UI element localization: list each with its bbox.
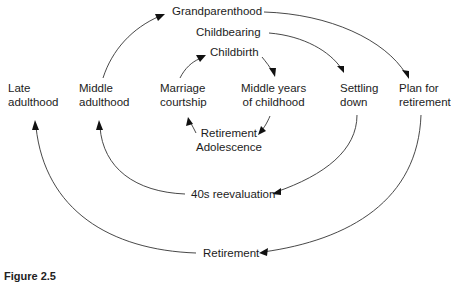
node-label-line-1: Marriage [160, 82, 207, 96]
node-plan-for-retirement: Plan for retirement [399, 82, 451, 109]
arrowhead [32, 120, 39, 130]
arrowhead [337, 66, 344, 73]
node-label: Retirement [203, 247, 259, 261]
node-label: 40s reevaluation [191, 188, 275, 202]
node-label-line-1: Middle years [241, 82, 306, 96]
node-label-line-1: Middle [79, 82, 130, 96]
node-label: Childbirth [210, 46, 259, 60]
node-label-line-2: courtship [160, 96, 207, 110]
node-retirement-adolescence: Retirement Adolescence [196, 127, 262, 154]
arrow-settling-down-to-40s-reevaluation [276, 115, 357, 192]
arrowhead [155, 14, 165, 21]
arrow-grandparenthood-to-plan-for-retirement [264, 12, 406, 74]
node-late-adulthood: Late adulthood [8, 82, 59, 109]
arrowhead [96, 120, 103, 130]
figure-caption: Figure 2.5 [4, 270, 56, 282]
node-label-line-2: adulthood [79, 96, 130, 110]
node-label-line-1: Late [8, 82, 59, 96]
node-grandparenthood: Grandparenthood [172, 5, 262, 19]
arrow-marriage-courtship-to-childbirth [180, 59, 199, 78]
node-label-line-2: adulthood [8, 96, 59, 110]
arrow-childbearing-to-settling-down [269, 33, 341, 68]
node-label: Childbearing [196, 26, 261, 40]
node-40s-reevaluation: 40s reevaluation [191, 188, 275, 202]
node-label-line-2: of childhood [241, 96, 306, 110]
arrow-middle-adulthood-to-grandparenthood [103, 16, 160, 78]
node-label-line-1: Settling [340, 82, 378, 96]
arrowhead [259, 248, 268, 256]
node-settling-down: Settling down [340, 82, 378, 109]
arrowhead [402, 70, 409, 79]
arrow-40s-reevaluation-to-middle-adulthood [100, 127, 185, 194]
node-label-line-2: down [340, 96, 378, 110]
arrowhead [196, 55, 206, 62]
arrow-retirement-to-late-adulthood [36, 127, 196, 253]
node-middle-years-of-childhood: Middle years of childhood [241, 82, 306, 109]
node-label-retirement: Retirement [196, 127, 262, 141]
node-label: Grandparenthood [172, 5, 262, 19]
node-childbearing: Childbearing [196, 26, 261, 40]
node-marriage-courtship: Marriage courtship [160, 82, 207, 109]
node-middle-adulthood: Middle adulthood [79, 82, 130, 109]
node-label-line-1: Plan for [399, 82, 451, 96]
node-label-line-2: retirement [399, 96, 451, 110]
node-label-adolescence: Adolescence [196, 141, 262, 155]
node-retirement: Retirement [203, 247, 259, 261]
arrow-plan-for-retirement-to-retirement [263, 115, 421, 252]
arrowhead [269, 68, 276, 77]
node-childbirth: Childbirth [210, 46, 259, 60]
